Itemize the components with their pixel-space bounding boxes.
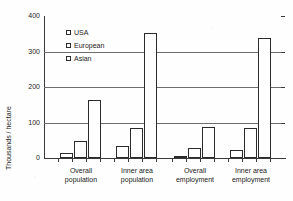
bar-group-2 [116,16,157,158]
bar-asian-group-1[interactable] [88,100,101,158]
y-tick-label-200: 200 [28,82,40,91]
legend-label-usa: USA [74,29,88,37]
y-tick-label-0: 0 [36,153,40,162]
category-label-4: Inner areaemployment [211,166,291,184]
x-tick-mark-6 [128,158,129,162]
y-tick-mark-0 [281,158,285,159]
bar-asian-group-3[interactable] [202,127,215,158]
x-tick-mark-12 [214,158,215,162]
legend-swatch-icon-european [66,43,71,48]
legend-label-european: European [74,42,104,50]
y-tick-label-300: 300 [28,47,40,56]
x-tick-mark-3 [86,158,87,162]
x-tick-mark-14 [242,158,243,162]
x-tick-mark-8 [156,158,157,162]
legend-item-asian[interactable]: Asian [66,53,104,64]
legend-swatch-icon-usa [66,30,71,35]
bar-group-3 [174,16,215,158]
bar-asian-group-4[interactable] [258,38,271,158]
bar-chart-figure: Thousands / hectare 400 300 200 [0,0,293,201]
bar-european-group-1[interactable] [74,141,87,158]
x-tick-mark-2 [72,158,73,162]
bar-european-group-2[interactable] [130,128,143,158]
bar-european-group-4[interactable] [244,128,257,158]
x-tick-mark-10 [186,158,187,162]
x-tick-mark-7 [142,158,143,162]
x-tick-mark-15 [256,158,257,162]
x-tick-mark-5 [114,158,115,162]
legend: USAEuropeanAsian [66,27,104,66]
legend-swatch-icon-asian [66,56,71,61]
y-axis-title: Thousands / hectare [5,80,13,170]
x-tick-mark-9 [172,158,173,162]
y-tick-label-100: 100 [28,118,40,127]
legend-item-usa[interactable]: USA [66,27,104,38]
category-label-4-line-2: employment [211,175,291,184]
x-axis-line [44,158,286,159]
bar-european-group-3[interactable] [188,148,201,158]
bar-asian-group-2[interactable] [144,33,157,158]
x-tick-mark-13 [228,158,229,162]
bar-usa-group-4[interactable] [230,150,243,158]
legend-label-asian: Asian [74,55,92,63]
bar-group-4 [230,16,271,158]
x-tick-mark-11 [200,158,201,162]
bar-usa-group-2[interactable] [116,146,129,158]
x-tick-mark-4 [100,158,101,162]
x-tick-mark-16 [270,158,271,162]
y-tick-label-400: 400 [28,11,40,20]
x-tick-mark-1 [58,158,59,162]
legend-item-european[interactable]: European [66,40,104,51]
category-label-4-line-1: Inner area [211,166,291,175]
